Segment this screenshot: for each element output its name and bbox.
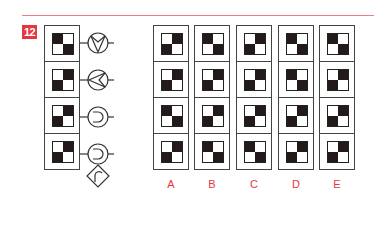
- white-quadrant: [63, 34, 73, 44]
- option-c-column[interactable]: [236, 25, 272, 170]
- white-quadrant: [203, 152, 213, 162]
- checker-pattern: [244, 69, 266, 91]
- white-quadrant: [53, 70, 63, 80]
- question-cell: [44, 61, 80, 98]
- black-quadrant: [287, 116, 297, 126]
- white-quadrant: [162, 34, 172, 44]
- white-quadrant: [172, 152, 182, 162]
- option-label-a[interactable]: A: [153, 178, 189, 190]
- white-quadrant: [328, 44, 338, 54]
- black-quadrant: [338, 70, 348, 80]
- white-quadrant: [63, 152, 73, 162]
- option-label-c[interactable]: C: [236, 178, 272, 190]
- option-cell: [236, 133, 272, 170]
- white-quadrant: [297, 152, 307, 162]
- white-quadrant: [255, 44, 265, 54]
- option-d-column[interactable]: [278, 25, 314, 170]
- checker-pattern: [327, 33, 349, 55]
- white-quadrant: [245, 70, 255, 80]
- white-quadrant: [245, 152, 255, 162]
- option-cell: [153, 133, 189, 170]
- white-quadrant: [53, 142, 63, 152]
- option-cell: [319, 97, 355, 134]
- black-quadrant: [172, 142, 182, 152]
- white-quadrant: [245, 106, 255, 116]
- white-quadrant: [338, 80, 348, 90]
- black-quadrant: [338, 106, 348, 116]
- checker-pattern: [286, 69, 308, 91]
- black-quadrant: [338, 44, 348, 54]
- option-cell: [153, 25, 189, 62]
- black-quadrant: [203, 80, 213, 90]
- option-label-e[interactable]: E: [319, 178, 355, 190]
- white-quadrant: [203, 106, 213, 116]
- black-quadrant: [328, 116, 338, 126]
- white-quadrant: [172, 80, 182, 90]
- option-cell: [194, 97, 230, 134]
- checker-pattern: [52, 33, 74, 55]
- question-number-badge: 12: [22, 25, 37, 39]
- white-quadrant: [213, 116, 223, 126]
- black-quadrant: [328, 34, 338, 44]
- option-cell: [194, 133, 230, 170]
- option-b-column[interactable]: [194, 25, 230, 170]
- white-quadrant: [213, 80, 223, 90]
- checker-pattern: [244, 141, 266, 163]
- black-quadrant: [245, 80, 255, 90]
- question-cell: [44, 97, 80, 134]
- checker-pattern: [52, 69, 74, 91]
- question-column: [44, 25, 80, 170]
- white-quadrant: [297, 116, 307, 126]
- white-quadrant: [287, 44, 297, 54]
- black-quadrant: [245, 142, 255, 152]
- white-quadrant: [255, 116, 265, 126]
- option-cell: [278, 133, 314, 170]
- circle-cup-left-icon: [80, 107, 114, 127]
- option-e-column[interactable]: [319, 25, 355, 170]
- checker-pattern: [244, 33, 266, 55]
- option-a-column[interactable]: [153, 25, 189, 170]
- symbol-column: [80, 25, 126, 197]
- checker-pattern: [161, 105, 183, 127]
- option-cell: [319, 133, 355, 170]
- white-quadrant: [213, 34, 223, 44]
- checker-pattern: [202, 105, 224, 127]
- white-quadrant: [255, 80, 265, 90]
- black-quadrant: [287, 70, 297, 80]
- circle-v-left-icon: [80, 70, 114, 90]
- black-quadrant: [203, 34, 213, 44]
- option-cell: [153, 97, 189, 134]
- checker-pattern: [202, 69, 224, 91]
- black-quadrant: [297, 44, 307, 54]
- black-quadrant: [297, 142, 307, 152]
- option-cell: [194, 25, 230, 62]
- white-quadrant: [328, 142, 338, 152]
- option-label-b[interactable]: B: [194, 178, 230, 190]
- option-cell: [236, 25, 272, 62]
- black-quadrant: [255, 34, 265, 44]
- option-cell: [278, 97, 314, 134]
- checker-pattern: [286, 105, 308, 127]
- white-quadrant: [287, 106, 297, 116]
- checker-pattern: [161, 141, 183, 163]
- white-quadrant: [53, 106, 63, 116]
- circle-v-down-icon: [80, 33, 114, 53]
- white-quadrant: [328, 106, 338, 116]
- black-quadrant: [162, 152, 172, 162]
- black-quadrant: [162, 80, 172, 90]
- black-quadrant: [328, 80, 338, 90]
- checker-pattern: [327, 141, 349, 163]
- checker-pattern: [286, 33, 308, 55]
- black-quadrant: [53, 80, 63, 90]
- white-quadrant: [338, 116, 348, 126]
- black-quadrant: [213, 106, 223, 116]
- option-cell: [236, 97, 272, 134]
- white-quadrant: [245, 34, 255, 44]
- white-quadrant: [162, 142, 172, 152]
- white-quadrant: [203, 44, 213, 54]
- black-quadrant: [213, 152, 223, 162]
- option-label-d[interactable]: D: [278, 178, 314, 190]
- white-quadrant: [328, 70, 338, 80]
- question-cell: [44, 133, 80, 170]
- question-cell: [44, 25, 80, 62]
